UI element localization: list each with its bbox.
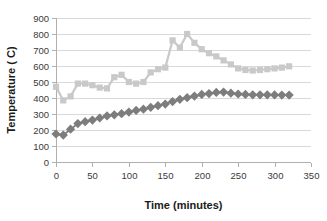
data-point-diamond (88, 115, 97, 124)
x-tick-label: 150 (158, 170, 174, 181)
data-point-square (104, 85, 110, 91)
data-point-diamond (139, 105, 148, 114)
data-point-diamond (132, 106, 141, 115)
data-point-diamond (153, 101, 162, 110)
series-upper-series (53, 31, 292, 104)
y-tick-label: 500 (33, 77, 49, 88)
y-tick-label: 0 (44, 157, 49, 168)
data-point-diamond (175, 95, 184, 104)
data-point-square (67, 93, 73, 99)
y-tick-label: 900 (33, 13, 49, 24)
data-point-square (206, 50, 212, 56)
data-point-diamond (124, 107, 133, 116)
y-tick-label: 300 (33, 109, 49, 120)
data-point-diamond (146, 103, 155, 112)
y-tick-label: 400 (33, 93, 49, 104)
data-point-square (279, 65, 285, 71)
x-tick-label: 100 (122, 170, 138, 181)
data-point-square (140, 79, 146, 85)
data-point-diamond (102, 111, 111, 120)
series-line (56, 34, 289, 100)
data-point-square (235, 65, 241, 71)
x-axis-title: Time (minutes) (144, 199, 222, 211)
x-tick-label: 250 (231, 170, 247, 181)
data-point-diamond (197, 90, 206, 99)
data-point-square (111, 74, 117, 80)
data-point-square (155, 66, 161, 72)
x-tick-label: 200 (195, 170, 211, 181)
data-point-square (118, 72, 124, 78)
data-point-square (271, 65, 277, 71)
data-point-square (148, 69, 154, 75)
data-point-square (53, 84, 59, 90)
data-point-square (286, 63, 292, 69)
x-tick-label: 50 (87, 170, 98, 181)
data-point-square (191, 40, 197, 46)
data-point-square (257, 67, 263, 73)
data-point-square (199, 46, 205, 52)
data-point-diamond (204, 89, 213, 98)
data-point-square (250, 67, 256, 73)
data-point-square (177, 45, 183, 51)
data-point-square (133, 81, 139, 87)
x-tick-label: 350 (304, 170, 320, 181)
chart-canvas: 0100200300400500600700800900050100150200… (0, 0, 327, 221)
data-point-square (220, 57, 226, 63)
data-point-square (60, 97, 66, 103)
y-tick-label: 200 (33, 125, 49, 136)
data-point-diamond (183, 93, 192, 102)
x-tick-label: 0 (54, 170, 59, 181)
y-tick-label: 100 (33, 141, 49, 152)
y-tick-label: 700 (33, 45, 49, 56)
data-point-square (213, 53, 219, 59)
data-point-square (89, 82, 95, 88)
data-point-diamond (226, 89, 235, 98)
y-axis-title: Temperature ( C) (5, 46, 17, 134)
x-tick-label: 300 (268, 170, 284, 181)
y-tick-group: 0100200300400500600700800900 (33, 13, 56, 168)
data-point-square (126, 79, 132, 85)
data-point-square (169, 37, 175, 43)
data-point-square (228, 61, 234, 67)
x-tick-group: 050100150200250300350 (54, 163, 320, 181)
data-point-square (242, 67, 248, 73)
series-lower-series (51, 87, 293, 139)
data-point-square (75, 81, 81, 87)
data-point-square (184, 31, 190, 37)
data-point-square (82, 81, 88, 87)
chart-figure: 0100200300400500600700800900050100150200… (0, 0, 327, 221)
data-point-diamond (81, 117, 90, 126)
data-point-square (162, 65, 168, 71)
y-tick-label: 600 (33, 61, 49, 72)
data-point-square (97, 85, 103, 91)
data-point-diamond (161, 99, 170, 108)
data-point-diamond (110, 110, 119, 119)
data-point-diamond (219, 87, 228, 96)
data-point-diamond (190, 91, 199, 100)
y-tick-label: 800 (33, 29, 49, 40)
data-point-diamond (117, 109, 126, 118)
data-point-square (264, 66, 270, 72)
